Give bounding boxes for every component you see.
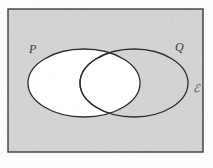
set-q-label: Q (175, 40, 184, 54)
venn-diagram-figure: P Q ℰ (0, 0, 213, 168)
set-p-label: P (28, 42, 37, 56)
venn-diagram-canvas: P Q ℰ (0, 0, 213, 168)
universal-set-label: ℰ (193, 82, 201, 94)
